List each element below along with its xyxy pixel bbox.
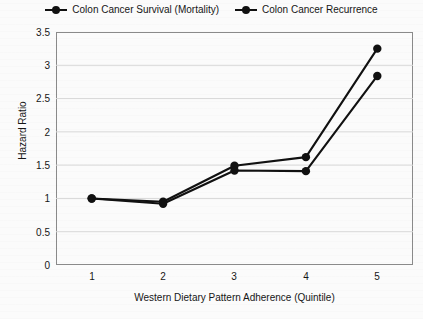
legend-label-survival: Colon Cancer Survival (Mortality)	[72, 4, 219, 16]
series-line-1	[92, 76, 378, 204]
y-axis-tick-labels: 3.5 3 2.5 2 1.5 1 0.5 0	[20, 0, 50, 319]
y-tick-2: 2	[22, 128, 50, 138]
data-point-marker	[373, 72, 381, 80]
y-tick-0: 0	[22, 261, 50, 271]
x-tick-4: 4	[291, 272, 321, 282]
legend-item-recurrence: Colon Cancer Recurrence	[235, 4, 378, 16]
chart-container: Colon Cancer Survival (Mortality) Colon …	[0, 0, 423, 319]
data-point-marker	[373, 44, 381, 52]
y-tick-3: 3	[22, 61, 50, 71]
legend-line-marker-icon	[235, 5, 257, 16]
chart-legend: Colon Cancer Survival (Mortality) Colon …	[0, 4, 423, 16]
data-point-marker	[302, 167, 310, 175]
data-point-marker	[159, 200, 167, 208]
x-tick-3: 3	[219, 272, 249, 282]
x-tick-2: 2	[148, 272, 178, 282]
legend-label-recurrence: Colon Cancer Recurrence	[262, 4, 378, 16]
legend-item-survival: Colon Cancer Survival (Mortality)	[45, 4, 219, 16]
x-axis-title: Western Dietary Pattern Adherence (Quint…	[56, 292, 413, 303]
plot-svg	[56, 32, 413, 265]
data-point-marker	[302, 153, 310, 161]
data-point-marker	[88, 194, 96, 202]
data-series-layer	[88, 44, 382, 208]
y-tick-2-5: 2.5	[22, 94, 50, 104]
series-line-0	[92, 49, 378, 202]
x-tick-1: 1	[77, 272, 107, 282]
y-tick-1: 1	[22, 194, 50, 204]
data-point-marker	[230, 166, 238, 174]
y-tick-3-5: 3.5	[22, 28, 50, 38]
gridlines	[56, 65, 413, 231]
y-tick-1-5: 1.5	[22, 161, 50, 171]
y-tick-0-5: 0.5	[22, 228, 50, 238]
x-tick-5: 5	[362, 272, 392, 282]
